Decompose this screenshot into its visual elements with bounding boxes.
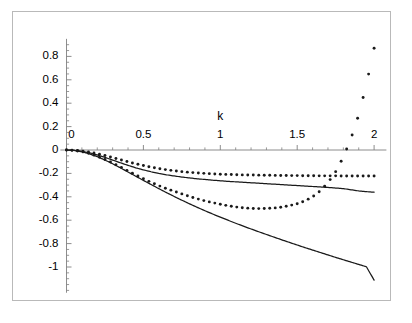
curves-group [65,47,376,280]
data-point [285,205,288,208]
data-point [164,187,167,190]
data-point [318,174,321,177]
x-axis-tick-label: 1 [203,129,237,141]
x-axis-label: k [217,110,223,122]
plot-canvas: 0.80.60.40.20-0.2-0.4-0.6-0.8-100.511.52… [0,0,412,323]
data-point [307,198,310,201]
data-point [219,203,222,206]
data-point [307,174,310,177]
data-point [147,165,150,168]
data-point [169,169,172,172]
data-point [367,175,370,178]
data-point [312,195,315,198]
y-axis-tick-label: -1 [17,261,59,273]
data-point [362,96,365,99]
data-point [334,170,337,173]
data-point [356,175,359,178]
lower-solid-curve [67,150,375,280]
data-point [285,174,288,177]
data-point [235,206,238,209]
data-point [329,178,332,181]
data-point [213,173,216,176]
data-point [323,185,326,188]
data-point [208,172,211,175]
data-point [246,207,249,210]
x-axis-tick-label: 2 [357,129,391,141]
data-point [279,206,282,209]
data-point [367,73,370,76]
y-axis-tick-label: 0.2 [17,121,59,133]
data-point [175,170,178,173]
plot-svg [0,0,412,323]
data-point [224,173,227,176]
data-point [268,174,271,177]
y-axis-tick-label: -0.8 [17,238,59,250]
x-axis-tick-label: 0 [55,129,89,141]
data-point [180,192,183,195]
data-point [186,171,189,174]
data-point [164,168,167,171]
data-point [252,207,255,210]
y-axis-tick-label: -0.2 [17,167,59,179]
y-axis-tick-label: 0 [17,144,59,156]
data-point [235,173,238,176]
data-point [301,200,304,203]
y-axis-tick-label: 0.6 [17,74,59,86]
data-point [290,174,293,177]
data-point [340,174,343,177]
data-point [158,167,161,170]
data-point [345,175,348,178]
data-point [191,171,194,174]
data-point [252,174,255,177]
data-point [208,200,211,203]
data-point [356,117,359,120]
data-point [296,202,299,205]
data-point [180,170,183,173]
data-point [351,134,354,137]
data-point [142,164,145,167]
data-point [202,199,205,202]
data-point [246,174,249,177]
data-point [120,159,123,162]
data-point [290,204,293,207]
data-point [175,191,178,194]
data-point [186,194,189,197]
y-axis-tick-label: -0.6 [17,214,59,226]
data-point [125,160,128,163]
y-axis-tick-label: 0.8 [17,50,59,62]
data-point [158,185,161,188]
data-point [318,190,321,193]
data-point [114,157,117,160]
data-point [279,174,282,177]
data-point [301,174,304,177]
data-point [109,156,112,159]
data-point [312,174,315,177]
data-point [136,163,139,166]
data-point [224,204,227,207]
data-point [202,172,205,175]
data-point [191,196,194,199]
data-point [241,206,244,209]
data-point [323,174,326,177]
data-point [241,173,244,176]
data-point [268,207,271,210]
data-point [230,205,233,208]
data-point [373,47,376,50]
data-point [274,174,277,177]
data-point [334,174,337,177]
x-axis-tick-label: 1.5 [280,129,314,141]
x-axis-tick-label: 0.5 [126,129,160,141]
data-point [230,173,233,176]
data-point [340,160,343,163]
axes-group [60,39,386,293]
data-point [296,174,299,177]
y-axis-tick-label: -0.4 [17,191,59,203]
data-point [197,172,200,175]
data-point [257,174,260,177]
data-point [219,173,222,176]
data-point [345,148,348,151]
data-point [362,175,365,178]
data-point [274,206,277,209]
data-point [257,207,260,210]
data-point [131,162,134,165]
